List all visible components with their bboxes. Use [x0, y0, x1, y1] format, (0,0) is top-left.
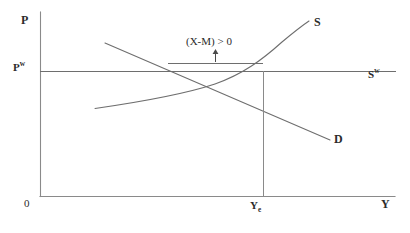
surplus-arrow-head: [213, 49, 219, 54]
world-price-tick-base: P: [13, 61, 20, 73]
world-price-tick-label: Pw: [13, 62, 25, 73]
export-surplus-annotation: (X-M) > 0: [186, 36, 232, 47]
equilibrium-quantity-base: Y: [250, 199, 258, 211]
world-supply-label-sup: w: [374, 66, 379, 75]
equilibrium-quantity-sub: e: [258, 206, 261, 214]
price-axis-label: P: [21, 14, 28, 26]
supply-curve-label: S: [314, 16, 321, 28]
export-surplus-diagram: P Y 0 Pw S Sw D Ye (X-M) > 0: [0, 0, 410, 233]
world-price-tick-sup: w: [20, 59, 25, 68]
domestic-demand-curve: [105, 43, 330, 140]
export-surplus-marker: [168, 49, 263, 64]
demand-curve-label: D: [334, 133, 343, 145]
equilibrium-quantity-label: Ye: [250, 200, 261, 211]
world-supply-curve-label: Sw: [368, 69, 380, 80]
quantity-axis-label: Y: [381, 198, 390, 210]
origin-label: 0: [24, 198, 30, 209]
